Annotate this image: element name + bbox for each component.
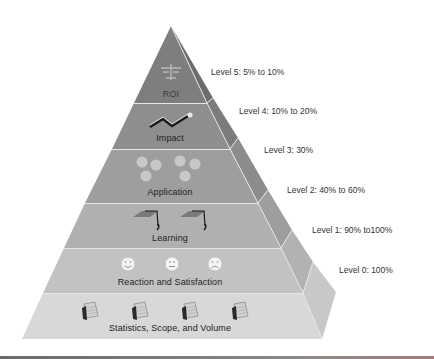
level-label-0: Level 0: 100% (339, 265, 393, 275)
layer-label-reaction: Reaction and Satisfaction (118, 277, 223, 287)
level-label-1: Level 1: 90% to100% (312, 225, 392, 235)
pyramid-graphic (0, 0, 434, 359)
layer-label-application: Application (147, 187, 192, 197)
level-label-4: Level 4: 10% to 20% (239, 106, 317, 116)
level-label-2: Level 2: 40% to 60% (287, 185, 365, 195)
happy-face-icon (121, 257, 135, 271)
pyramid-diagram: ROI Impact Application Learning Reaction… (0, 0, 434, 359)
neutral-face-icon (165, 257, 179, 271)
level-label-3: Level 3: 30% (264, 145, 313, 155)
sad-face-icon (208, 257, 222, 271)
layer-label-impact: Impact (156, 133, 184, 143)
layer-label-roi: ROI (163, 89, 179, 99)
layer-label-learning: Learning (152, 233, 188, 243)
layer-label-statistics: Statistics, Scope, and Volume (109, 323, 231, 333)
level-label-5: Level 5: 5% to 10% (211, 67, 284, 77)
